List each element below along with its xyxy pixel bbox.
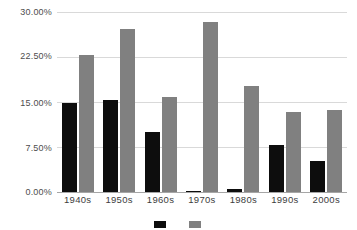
legend-item	[154, 221, 169, 228]
axis-baseline	[57, 192, 347, 193]
y-axis-tick-label: 7.50%	[0, 143, 52, 153]
y-axis-tick-label: 30.00%	[0, 7, 52, 17]
bar	[327, 110, 342, 192]
legend-swatch	[154, 221, 166, 228]
bar	[269, 145, 284, 192]
bar	[310, 161, 325, 192]
bar	[62, 103, 77, 192]
legend-item	[189, 221, 204, 228]
bar-group	[140, 12, 181, 192]
legend-swatch	[189, 221, 201, 228]
x-axis-tick-label: 1960s	[140, 194, 181, 212]
plot-area	[57, 12, 347, 192]
x-axis-tick-label: 1950s	[98, 194, 139, 212]
bar-groups	[57, 12, 347, 192]
x-axis-tick-label: 1980s	[223, 194, 264, 212]
bar	[286, 112, 301, 192]
bar	[145, 132, 160, 192]
bar-group	[181, 12, 222, 192]
bar-group	[98, 12, 139, 192]
y-axis-tick-label: 15.00%	[0, 98, 52, 108]
x-axis-tick-label: 1940s	[57, 194, 98, 212]
chart-legend	[0, 221, 357, 230]
bar	[103, 100, 118, 192]
bar	[186, 191, 201, 192]
x-axis-tick-label: 2000s	[306, 194, 347, 212]
bar-group	[264, 12, 305, 192]
bar-group	[306, 12, 347, 192]
bar	[244, 86, 259, 192]
bar-group	[223, 12, 264, 192]
bar	[79, 55, 94, 192]
bar	[227, 189, 242, 192]
bar	[203, 22, 218, 192]
y-axis-tick-label: 22.50%	[0, 51, 52, 61]
bar-group	[57, 12, 98, 192]
y-axis-tick-label: 0.00%	[0, 187, 52, 197]
bar	[120, 29, 135, 192]
bar	[162, 97, 177, 192]
x-axis-tick-label: 1970s	[181, 194, 222, 212]
x-axis-tick-label: 1990s	[264, 194, 305, 212]
bar-chart: 30.00% 22.50% 15.00% 7.50% 0.00% 1940s19…	[0, 0, 357, 230]
x-axis: 1940s1950s1960s1970s1980s1990s2000s	[57, 194, 347, 212]
